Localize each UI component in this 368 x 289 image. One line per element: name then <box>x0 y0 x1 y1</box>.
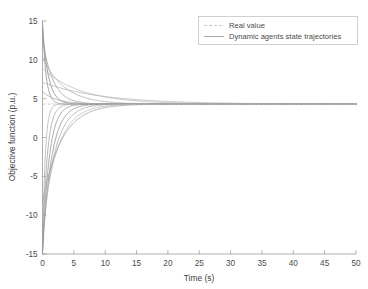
x-tick-label: 50 <box>351 259 361 268</box>
trajectory-line <box>43 104 357 203</box>
y-tick-label: -5 <box>30 172 38 181</box>
y-tick-label: 10 <box>28 56 38 65</box>
x-axis-title: Time (s) <box>184 273 215 283</box>
y-tick-label: 5 <box>33 95 38 104</box>
y-tick-label: -15 <box>26 250 38 259</box>
trajectory-line <box>43 104 357 223</box>
legend-label-real-value: Real value <box>229 21 265 30</box>
plot-svg: 05101520253035404550 -15-10-5051015 Time… <box>0 0 368 289</box>
trajectory-line <box>43 104 357 254</box>
trajectory-line <box>43 104 357 251</box>
x-tick-label: 5 <box>72 259 77 268</box>
y-tick-label: -10 <box>26 211 38 220</box>
y-tick-label: 15 <box>28 17 38 26</box>
x-tick-label: 0 <box>40 259 45 268</box>
x-tick-label: 40 <box>289 259 299 268</box>
x-tick-group: 05101520253035404550 <box>40 250 361 268</box>
y-axis-title: Objective function (p.u.) <box>7 93 17 182</box>
axes <box>43 21 357 254</box>
trajectory-line <box>43 104 357 240</box>
x-tick-label: 15 <box>132 259 142 268</box>
chart-figure: 05101520253035404550 -15-10-5051015 Time… <box>0 0 368 289</box>
x-tick-label: 30 <box>226 259 236 268</box>
x-tick-label: 45 <box>320 259 330 268</box>
legend[interactable]: Real value Dynamic agents state trajecto… <box>199 17 358 45</box>
trajectory-group <box>43 21 357 254</box>
x-tick-label: 10 <box>101 259 111 268</box>
y-tick-label: 0 <box>33 134 38 143</box>
trajectory-line <box>43 104 357 254</box>
legend-label-trajectories: Dynamic agents state trajectories <box>229 32 341 41</box>
x-tick-label: 20 <box>163 259 173 268</box>
trajectory-line <box>43 57 357 104</box>
x-tick-label: 25 <box>195 259 205 268</box>
trajectory-line <box>43 104 357 254</box>
x-tick-label: 35 <box>257 259 267 268</box>
